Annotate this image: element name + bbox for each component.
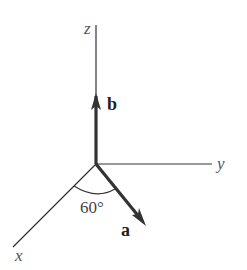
z-axis-label: z <box>83 19 91 38</box>
vector-a-label: a <box>121 220 130 240</box>
vector-diagram: z y x b a 60° <box>0 0 247 270</box>
y-axis-label: y <box>215 154 225 173</box>
x-axis-label: x <box>14 246 23 265</box>
angle-arc <box>74 186 115 194</box>
vector-b-label: b <box>107 94 117 114</box>
angle-label: 60° <box>80 198 104 217</box>
